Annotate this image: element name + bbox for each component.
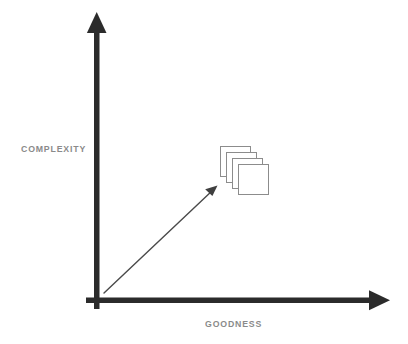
y-axis-label: COMPLEXITY — [21, 144, 86, 154]
diagram-canvas: COMPLEXITY GOODNESS — [0, 0, 408, 344]
axis-arrow-right-icon — [369, 290, 390, 310]
axis-arrow-up-icon — [87, 12, 107, 33]
trend-arrow-line — [104, 190, 213, 293]
stacked-square-1 — [239, 165, 269, 195]
diagram-graphic — [0, 0, 408, 344]
diagonal-arrow-icon — [205, 186, 217, 197]
x-axis-line — [86, 298, 374, 304]
y-axis-line — [94, 28, 100, 309]
x-axis-label: GOODNESS — [205, 319, 262, 329]
